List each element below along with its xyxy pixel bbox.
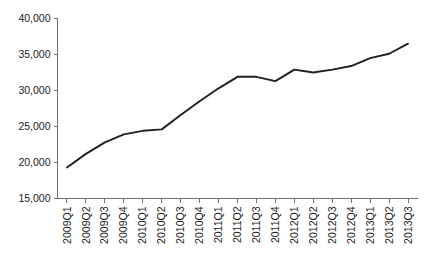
x-axis-tick-label: 2012Q1	[288, 206, 300, 244]
y-axis-tick-label: 20,000	[18, 156, 50, 168]
x-axis-tick-label: 2011Q4	[269, 206, 281, 243]
x-axis-tick-label: 2009Q4	[117, 206, 129, 244]
x-axis-tick-label: 2009Q2	[80, 206, 92, 244]
x-axis-tick-label: 2013Q1	[364, 206, 376, 244]
y-axis-tick-label: 15,000	[18, 192, 50, 204]
x-axis-tick-label: 2010Q3	[174, 206, 186, 244]
y-axis-tick-label: 40,000	[18, 12, 50, 24]
y-axis-tick-label: 30,000	[18, 84, 50, 96]
plot-area	[67, 44, 408, 168]
x-axis-tick-label: 2009Q1	[61, 206, 73, 244]
x-axis-tick-label: 2012Q3	[326, 206, 338, 244]
x-axis-tick-label: 2013Q3	[402, 206, 414, 244]
y-axis-tick-label: 35,000	[18, 48, 50, 60]
x-axis-tick-label: 2011Q2	[231, 206, 243, 243]
y-axis-tick-marks	[54, 19, 58, 199]
chart-container: 40,00035,00030,00025,00020,00015,000 200…	[0, 0, 424, 264]
x-axis-tick-label: 2012Q4	[345, 206, 357, 244]
x-axis-tick-label: 2013Q2	[383, 206, 395, 244]
x-axis-tick-label: 2010Q4	[193, 206, 205, 244]
x-axis-tick-label: 2011Q1	[212, 206, 224, 243]
y-axis-tick-label: 25,000	[18, 120, 50, 132]
y-axis-tick-labels: 40,00035,00030,00025,00020,00015,000	[18, 12, 50, 204]
x-axis-tick-label: 2010Q2	[155, 206, 167, 244]
x-axis-tick-label: 2010Q1	[136, 206, 148, 244]
x-axis-tick-label: 2009Q3	[98, 206, 110, 244]
x-axis-tick-label: 2012Q2	[307, 206, 319, 244]
x-axis-tick-labels: 2009Q12009Q22009Q32009Q42010Q12010Q22010…	[61, 206, 414, 244]
line-chart: 40,00035,00030,00025,00020,00015,000 200…	[0, 0, 424, 264]
x-axis-tick-marks	[67, 199, 408, 203]
x-axis-tick-label: 2011Q3	[250, 206, 262, 243]
data-series-line	[67, 44, 408, 168]
x-axis: 2009Q12009Q22009Q32009Q42010Q12010Q22010…	[58, 199, 418, 244]
y-axis: 40,00035,00030,00025,00020,00015,000	[18, 12, 57, 204]
